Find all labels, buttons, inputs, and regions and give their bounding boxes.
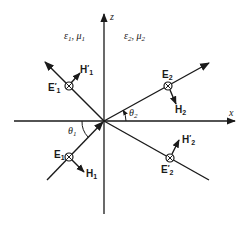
e1-prime-label: E′1 — [48, 82, 61, 94]
h1-prime-arrow — [71, 73, 80, 83]
h2-label: H2 — [175, 105, 186, 116]
theta2-label: θ2 — [129, 108, 137, 120]
e2-prime-label: E′2 — [161, 164, 174, 176]
transmitted-reflected-ray — [104, 121, 209, 180]
e2-prime-symbol — [166, 154, 174, 162]
z-axis-label: z — [110, 12, 114, 22]
h2-arrow — [170, 90, 176, 104]
e2-symbol — [164, 82, 172, 90]
e1-symbol — [65, 153, 73, 161]
wave-reflection-diagram: z x ε1, μ1 ε2, μ2 θ1 θ2 E′1 H′1 E1 H1 E2… — [0, 0, 248, 226]
medium1-label: ε1, μ1 — [64, 31, 85, 43]
theta1-arc — [82, 121, 88, 137]
e2-label: E2 — [162, 70, 173, 81]
e1-label: E1 — [54, 150, 65, 161]
theta1-label: θ1 — [68, 126, 76, 138]
h2-prime-arrow — [172, 140, 179, 154]
h1-prime-label: H′1 — [80, 64, 93, 76]
x-axis-label: x — [229, 108, 233, 118]
theta2-arc — [123, 110, 126, 121]
transmitted-ray — [104, 63, 209, 121]
h2-prime-label: H′2 — [182, 134, 195, 146]
e1-prime-symbol — [65, 82, 73, 90]
h1-arrow — [72, 160, 84, 172]
medium2-label: ε2, μ2 — [124, 31, 145, 43]
h1-label: H1 — [86, 169, 97, 180]
